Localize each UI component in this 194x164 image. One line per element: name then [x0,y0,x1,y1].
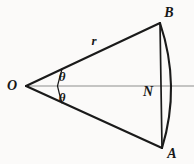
figure-canvas [0,0,194,164]
geometry-figure: O B A N r θ θ [0,0,194,164]
label-radius-r: r [91,34,96,47]
label-angle-theta-lower: θ [59,91,66,104]
label-point-o: O [7,79,17,93]
label-point-a: A [167,147,176,161]
radius-line-oa [26,86,162,148]
chord-line-ba [160,23,162,148]
label-point-b: B [164,6,173,20]
label-point-n: N [143,85,153,99]
label-angle-theta-upper: θ [59,70,66,83]
